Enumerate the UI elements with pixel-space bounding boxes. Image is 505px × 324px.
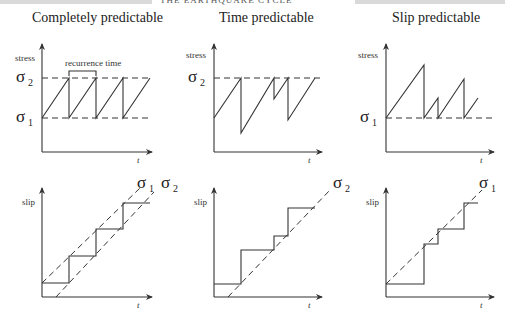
y-axis-label: slip	[22, 197, 36, 207]
recurrence-time-label: recurrence time	[65, 58, 121, 68]
x-axis-label: t	[137, 300, 140, 310]
stress-plot-time-predictable: stress t σ 2	[186, 44, 322, 165]
sigma2-subscript: 2	[200, 77, 205, 88]
sigma1-label: σ	[16, 107, 25, 126]
y-axis-label: stress	[15, 53, 35, 63]
y-axis-label: slip	[194, 197, 208, 207]
stress-plot-slip-predictable: stress t σ 1	[358, 44, 494, 165]
sigma1-label: σ	[360, 107, 369, 126]
slip-staircase	[42, 203, 150, 283]
stress-plot-completely-predictable: stress recurrence time t σ 2 σ 1	[15, 44, 152, 165]
sigma2-trend-line	[228, 190, 330, 297]
slip-plot-time-predictable: slip t σ 2	[194, 173, 350, 310]
sigma2-label: σ	[16, 67, 25, 86]
y-axis-label: slip	[366, 197, 380, 207]
x-axis-label: t	[308, 300, 311, 310]
sigma2-line-label: σ	[161, 173, 170, 192]
sigma2-line-subscript: 2	[173, 183, 178, 194]
sigma2-line-subscript: 2	[345, 183, 350, 194]
sigma1-subscript: 1	[28, 117, 33, 128]
sigma2-trend-line	[56, 192, 154, 297]
sigma2-subscript: 2	[28, 77, 33, 88]
sigma1-line-label: σ	[137, 173, 146, 192]
x-axis-label: t	[308, 155, 311, 165]
x-axis-label: t	[480, 155, 483, 165]
stress-sawtooth	[386, 65, 478, 118]
slip-staircase	[214, 208, 315, 284]
sigma1-line-subscript: 1	[149, 183, 154, 194]
sigma1-trend-line	[386, 190, 482, 284]
stress-sawtooth	[214, 78, 315, 133]
x-axis-label: t	[480, 300, 483, 310]
sigma1-trend-line	[42, 188, 140, 283]
sigma2-line-label: σ	[333, 173, 342, 192]
y-axis-label: stress	[186, 50, 206, 60]
slip-staircase	[386, 203, 478, 284]
sigma1-subscript: 1	[372, 117, 377, 128]
y-axis-label: stress	[358, 50, 378, 60]
stress-sawtooth	[42, 78, 150, 118]
slip-plot-slip-predictable: slip t σ 1	[366, 173, 496, 310]
slip-plot-completely-predictable: slip t σ 1 σ 2	[22, 173, 178, 310]
sigma1-line-subscript: 1	[491, 183, 496, 194]
recurrence-bracket	[69, 71, 96, 76]
sigma1-line-label: σ	[479, 173, 488, 192]
earthquake-cycle-diagram: stress recurrence time t σ 2 σ 1 stress …	[0, 0, 505, 324]
x-axis-label: t	[137, 155, 140, 165]
sigma2-label: σ	[188, 67, 197, 86]
